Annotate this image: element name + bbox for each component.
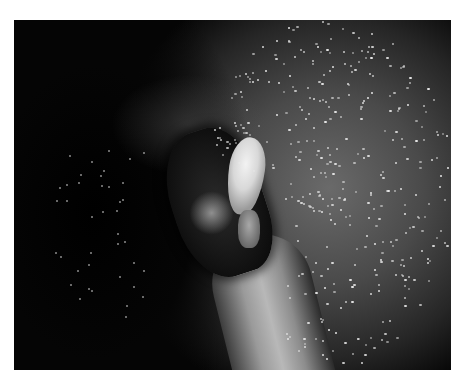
endoscopic-image [14, 20, 451, 370]
light-reflections [14, 20, 451, 370]
